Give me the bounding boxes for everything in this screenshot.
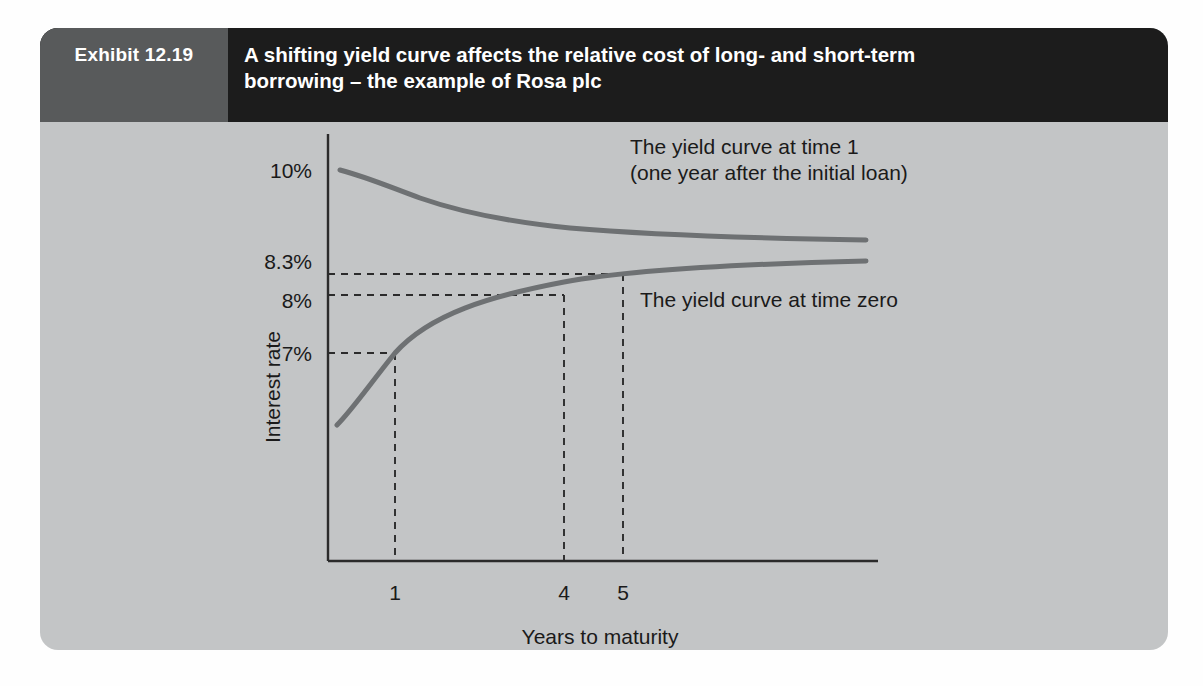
- exhibit-number-label: Exhibit 12.19: [75, 44, 194, 66]
- exhibit-title-line2: borrowing – the example of Rosa plc: [244, 68, 1150, 94]
- y-tick-label-1: 8.3%: [264, 250, 312, 273]
- exhibit-title: A shifting yield curve affects the relat…: [228, 28, 1168, 122]
- exhibit-number-tab: Exhibit 12.19: [40, 28, 228, 122]
- x-tick-label-2: 5: [617, 581, 629, 604]
- yield-curve-chart: 10% 8.3% 8% 7% 1 4 5 Years to maturity I…: [40, 122, 1168, 650]
- annotation-time-1-line2: (one year after the initial loan): [630, 161, 908, 184]
- y-axis-title: Interest rate: [261, 331, 284, 443]
- x-tick-label-1: 4: [558, 581, 570, 604]
- y-tick-label-3: 7%: [282, 342, 312, 365]
- exhibit-header: Exhibit 12.19 A shifting yield curve aff…: [40, 28, 1168, 122]
- y-tick-label-2: 8%: [282, 289, 312, 312]
- curve-time-zero: [337, 261, 866, 425]
- y-tick-label-0: 10%: [270, 159, 312, 182]
- x-axis-title: Years to maturity: [522, 625, 679, 648]
- annotation-time-1-line1: The yield curve at time 1: [630, 135, 859, 158]
- annotation-time-zero: The yield curve at time zero: [640, 288, 898, 311]
- page-root: Exhibit 12.19 A shifting yield curve aff…: [0, 0, 1203, 686]
- x-tick-label-0: 1: [389, 581, 401, 604]
- exhibit-card: Exhibit 12.19 A shifting yield curve aff…: [40, 28, 1168, 650]
- chart-area: 10% 8.3% 8% 7% 1 4 5 Years to maturity I…: [40, 122, 1168, 650]
- exhibit-title-line1: A shifting yield curve affects the relat…: [244, 43, 915, 66]
